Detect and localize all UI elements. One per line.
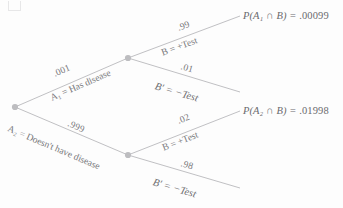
node-root	[12, 104, 18, 110]
edge-root-to-a2	[15, 107, 128, 155]
result-a1-expression: P(A₁ ∩ B) =	[243, 10, 297, 21]
tree-edges-layer	[0, 0, 343, 208]
probability-tree-diagram: .001 A₁ = Has disease .999 A₂ = Doesn't …	[0, 0, 343, 208]
result-a1-value: .00099	[299, 10, 328, 21]
node-a1	[125, 55, 131, 61]
result-a1-intersect-b: P(A₁ ∩ B) = .00099	[243, 10, 329, 21]
result-a2-value: .01998	[299, 105, 328, 116]
node-a2	[125, 152, 131, 158]
result-a2-expression: P(A₂ ∩ B) =	[243, 105, 297, 116]
result-a2-intersect-b: P(A₂ ∩ B) = .01998	[243, 105, 329, 116]
